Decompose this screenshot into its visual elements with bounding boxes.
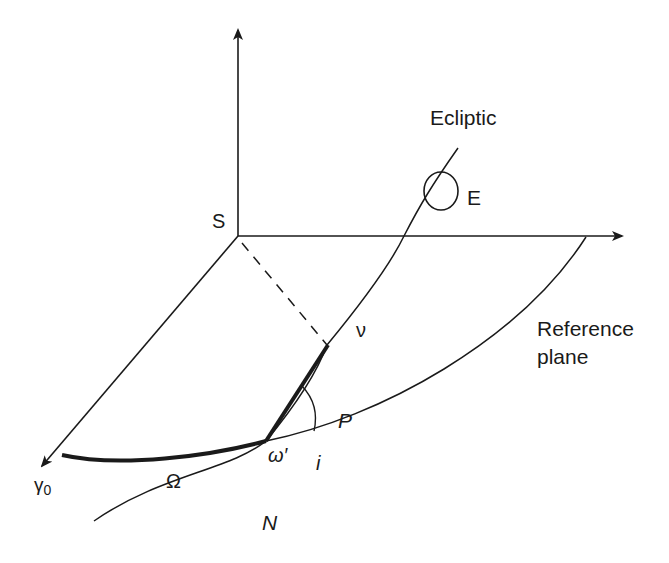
label-longitude-node: Ω — [166, 470, 181, 492]
label-true-anomaly: ν — [356, 319, 366, 341]
label-reference-line1: Reference — [537, 317, 634, 340]
label-perihelion: P — [338, 409, 352, 432]
label-omega-prime: ω′ — [268, 444, 289, 466]
gamma0-axis — [42, 236, 238, 466]
orbital-diagram: S Ecliptic E Reference plane ν P ω′ i Ω … — [0, 0, 669, 563]
label-reference-line2: plane — [537, 345, 588, 368]
inclination-arc — [302, 386, 316, 431]
label-ecliptic: Ecliptic — [430, 106, 497, 129]
label-origin: S — [212, 210, 225, 232]
label-gamma0: γ0 — [34, 474, 52, 498]
dashed-line-s-p — [242, 243, 327, 345]
label-node: N — [262, 511, 278, 534]
label-earth: E — [467, 186, 481, 209]
label-inclination: i — [316, 452, 321, 474]
